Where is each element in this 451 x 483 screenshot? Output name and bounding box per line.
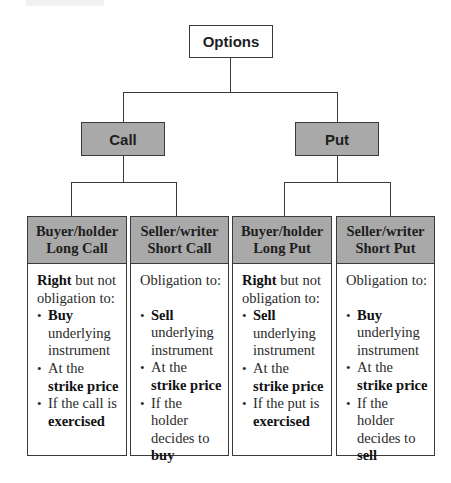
intro-bold: Right [242,272,277,288]
node-put: Put [295,122,379,156]
bullet-bold: Sell [151,307,174,323]
bullet-item: At the strike price [37,360,120,395]
bullet-text: If the put is [253,395,319,411]
leaf-long-put: Buyer/holder Long Put Right but not obli… [232,216,332,456]
leaf-title-role: Buyer/holder [241,223,323,240]
connector-root-stem [230,58,231,93]
bullet-text: If the holder decides to [357,395,415,446]
bullet-bold: strike price [48,378,118,394]
leaf-header: Buyer/holder Long Put [233,217,331,264]
leaf-short-call: Seller/writer Short Call Obligation to: … [130,216,229,456]
connector-short-call-drop [176,182,177,216]
bullet-bold: Sell [253,307,276,323]
leaf-body: Obligation to: Sell underlying instrumen… [131,264,228,465]
leaf-body: Right but not obligation to: Buy underly… [28,264,126,430]
leaf-intro: Obligation to: [140,272,222,290]
bullet-bold: exercised [253,413,310,429]
bullet-item: At the strike price [140,359,222,394]
bullet-text: At the [253,360,289,376]
bullet-item: Buy underlying instrument [346,307,428,360]
leaf-title-position: Long Put [253,240,311,257]
bullet-text: If the holder decides to [151,395,209,446]
bullet-text: At the [151,359,187,375]
clipped-caption-fragment [26,0,104,6]
leaf-title-role: Buyer/holder [36,223,118,240]
connector-long-put-drop [284,182,285,216]
call-label: Call [109,131,137,148]
bullet-item: Sell underlying instrument [140,307,222,360]
leaf-header: Seller/writer Short Call [131,217,228,264]
bullet-bold: Buy [357,307,382,323]
bullet-text: underlying instrument [48,325,111,359]
bullet-text: At the [48,360,84,376]
leaf-title-position: Short Call [147,240,211,257]
connector-put-drop [337,92,338,122]
connector-call-stem [123,156,124,183]
bullet-bold: exercised [48,413,105,429]
leaf-body: Right but not obligation to: Sell underl… [233,264,331,430]
leaf-bullets: Buy underlying instrument At the strike … [346,307,428,465]
connector-call-bar [71,182,177,183]
leaf-intro: Right but not obligation to: [242,272,325,307]
bullet-item: At the strike price [346,359,428,394]
bullet-text: underlying instrument [151,324,214,358]
leaf-intro: Obligation to: [346,272,428,290]
bullet-item: Buy underlying instrument [37,307,120,360]
connector-put-stem [337,156,338,183]
leaf-long-call: Buyer/holder Long Call Right but not obl… [27,216,127,456]
leaf-title-position: Long Call [46,240,108,257]
leaf-intro: Right but not obligation to: [37,272,120,307]
leaf-bullets: Sell underlying instrument At the strike… [242,307,325,430]
leaf-title-role: Seller/writer [346,223,424,240]
connector-call-drop [123,92,124,122]
bullet-bold: strike price [357,377,427,393]
leaf-header: Seller/writer Short Put [337,217,434,264]
leaf-short-put: Seller/writer Short Put Obligation to: B… [336,216,435,456]
intro-bold: Right [37,272,72,288]
bullet-text: underlying instrument [357,324,420,358]
bullet-bold: strike price [151,377,221,393]
bullet-text: At the [357,359,393,375]
connector-short-put-drop [390,182,391,216]
leaf-bullets: Sell underlying instrument At the strike… [140,307,222,465]
bullet-item: At the strike price [242,360,325,395]
leaf-header: Buyer/holder Long Call [28,217,126,264]
bullet-text: If the call is [48,395,117,411]
connector-put-bar [284,182,391,183]
leaf-body: Obligation to: Buy underlying instrument… [337,264,434,465]
bullet-text: underlying instrument [253,325,316,359]
bullet-bold: strike price [253,378,323,394]
connector-long-call-drop [71,182,72,216]
root-node-options: Options [189,25,273,58]
bullet-bold: buy [151,447,174,463]
bullet-bold: sell [357,447,377,463]
leaf-bullets: Buy underlying instrument At the strike … [37,307,120,430]
bullet-item: If the holder decides to sell [346,395,428,465]
leaf-title-role: Seller/writer [140,223,218,240]
bullet-item: If the call is exercised [37,395,120,430]
put-label: Put [325,131,349,148]
bullet-bold: Buy [48,307,73,323]
leaf-title-position: Short Put [355,240,415,257]
bullet-item: If the holder decides to buy [140,395,222,465]
bullet-item: Sell underlying instrument [242,307,325,360]
root-label: Options [203,33,260,50]
bullet-item: If the put is exercised [242,395,325,430]
node-call: Call [81,122,165,156]
options-diagram: Options Call Put Buyer/holder Long Call … [0,0,451,483]
connector-root-bar [123,92,338,93]
